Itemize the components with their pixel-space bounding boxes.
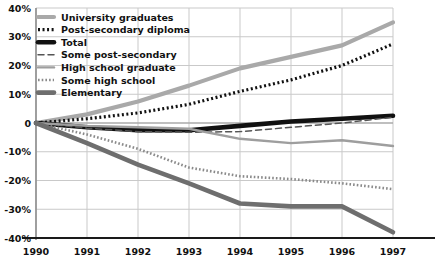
x-tick-label: 1992 (125, 246, 151, 257)
x-tick-label: 1997 (380, 246, 406, 257)
y-tick-label: -40% (4, 233, 31, 244)
legend-label-university-graduates: University graduates (61, 12, 174, 23)
line-chart: 40%30%20%10%0-10%-20%-30%-40%19901991199… (0, 0, 435, 266)
legend-label-post-secondary-diploma: Post-secondary diploma (61, 24, 190, 35)
legend-label-total: Total (61, 37, 87, 48)
x-tick-label: 1995 (278, 246, 304, 257)
legend-label-high-school-graduate: High school graduate (61, 62, 176, 73)
y-tick-label: 0 (24, 118, 31, 129)
y-tick-label: 30% (8, 31, 31, 42)
x-tick-label: 1993 (176, 246, 202, 257)
x-tick-label: 1996 (329, 246, 356, 257)
chart-canvas: 40%30%20%10%0-10%-20%-30%-40%19901991199… (0, 0, 435, 266)
x-tick-label: 1990 (23, 246, 50, 257)
y-tick-label: -30% (4, 204, 31, 215)
legend-label-some-high-school: Some high school (61, 75, 155, 86)
y-tick-label: -20% (4, 175, 31, 186)
y-tick-label: -10% (4, 146, 31, 157)
legend-label-elementary: Elementary (61, 87, 123, 98)
x-tick-label: 1991 (74, 246, 100, 257)
x-axis-labels: 19901991199219931994199519961997 (23, 246, 406, 257)
x-tick-label: 1994 (227, 246, 254, 257)
legend: University graduatesPost-secondary diplo… (38, 12, 190, 99)
y-tick-label: 40% (8, 3, 31, 14)
y-axis-labels: 40%30%20%10%0-10%-20%-30%-40% (4, 3, 31, 244)
y-tick-label: 10% (8, 89, 31, 100)
y-tick-label: 20% (8, 60, 31, 71)
legend-label-some-post-secondary: Some post-secondary (61, 49, 177, 60)
